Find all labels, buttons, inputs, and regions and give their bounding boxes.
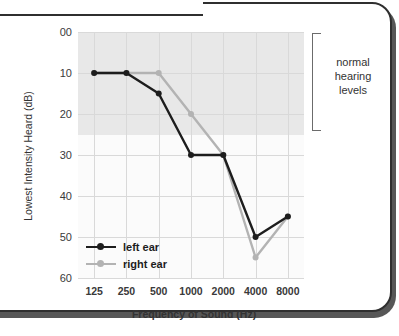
series-line-right-ear [94,73,288,258]
y-tick-label: 00 [60,26,72,38]
y-tick-label: 40 [60,190,72,202]
legend-label-left-ear: left ear [123,241,159,253]
data-point-left-ear [253,234,259,240]
data-point-left-ear [91,70,97,76]
data-point-right-ear [253,255,259,261]
legend-swatch-left-ear [86,241,116,253]
x-tick-label: 2000 [212,285,235,297]
annotation-line-1: normal [318,55,388,69]
audiogram-figure: Lowest Intensity Heard (dB) 001020304050… [0,0,399,336]
legend-swatch-right-ear [86,258,116,270]
page-root: Lowest Intensity Heard (dB) 001020304050… [0,0,399,336]
annotation-line-3: levels [318,83,388,97]
legend-item-left-ear: left ear [86,238,167,255]
gridline-horizontal [78,278,304,279]
x-tick-label: 1000 [179,285,202,297]
y-tick-label: 10 [60,67,72,79]
data-point-right-ear [188,111,194,117]
x-axis-title: Frequency of Sound (Hz) [78,308,310,320]
legend-label-right-ear: right ear [123,258,167,270]
data-point-left-ear [188,152,194,158]
data-point-left-ear [123,70,129,76]
x-tick-label: 4000 [244,285,267,297]
normal-hearing-annotation: normal hearing levels [318,55,388,97]
annotation-line-2: hearing [318,69,388,83]
x-tick-label: 250 [118,285,136,297]
y-axis-title: Lowest Intensity Heard (dB) [22,56,34,256]
data-point-left-ear [285,214,291,220]
x-tick-label: 125 [85,285,103,297]
y-tick-label: 60 [60,272,72,284]
chart-legend: left ear right ear [86,238,167,272]
data-point-left-ear [220,152,226,158]
data-point-left-ear [156,91,162,97]
y-tick-label: 30 [60,149,72,161]
x-tick-label: 500 [150,285,168,297]
legend-item-right-ear: right ear [86,255,167,272]
y-tick-label: 20 [60,108,72,120]
data-point-right-ear [156,70,162,76]
y-tick-label: 50 [60,231,72,243]
x-tick-label: 8000 [276,285,299,297]
